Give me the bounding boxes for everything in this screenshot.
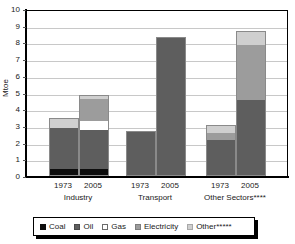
y-axis-tick-mark	[23, 160, 26, 161]
bar-segment-electricity	[236, 45, 266, 100]
legend-label-oil: Oil	[83, 223, 93, 231]
legend-item-gas[interactable]: Gas	[102, 223, 126, 231]
plot-area	[26, 10, 288, 177]
bar-segment-coal	[49, 169, 79, 177]
y-axis-tick-mark	[23, 60, 26, 61]
bar-segment-oil	[236, 100, 266, 176]
bar-segment-electricity	[79, 99, 109, 120]
bar-segment-other	[79, 95, 109, 99]
y-axis-tick-label: 2	[4, 140, 20, 148]
x-axis-line	[25, 176, 289, 178]
bar-segment-oil	[49, 128, 79, 168]
legend-swatch-electricity	[135, 224, 141, 230]
bar-other-sectors-1973	[206, 125, 236, 176]
bar-segment-other	[206, 125, 236, 133]
y-axis-tick-label: 3	[4, 123, 20, 131]
y-axis-tick-label: 1	[4, 156, 20, 164]
bar-segment-oil	[79, 130, 109, 169]
y-axis-tick-mark	[23, 110, 26, 111]
bar-other-sectors-2005	[236, 31, 266, 176]
bar-segment-oil	[126, 131, 156, 176]
bar-industry-1973	[49, 118, 79, 176]
bar-industry-2005	[79, 95, 109, 176]
legend-label-gas: Gas	[111, 223, 126, 231]
chart-legend: CoalOilGasElectricityOther*****	[33, 217, 255, 236]
legend-item-oil[interactable]: Oil	[74, 223, 93, 231]
grid-line	[27, 28, 287, 29]
bar-segment-oil	[206, 140, 236, 176]
y-axis-tick-mark	[23, 144, 26, 145]
bar-segment-coal	[79, 169, 109, 176]
chart-container: 012345678910 Mtoe 19732005Industry197320…	[0, 0, 295, 244]
bar-segment-gas	[79, 121, 109, 130]
legend-swatch-gas	[102, 224, 108, 230]
y-axis-title: Mtoe	[2, 68, 10, 108]
y-axis-tick-mark	[23, 77, 26, 78]
legend-item-coal[interactable]: Coal	[40, 223, 65, 231]
y-axis-tick-label: 8	[4, 39, 20, 47]
legend-item-other[interactable]: Other*****	[187, 223, 232, 231]
legend-swatch-coal	[40, 224, 46, 230]
x-axis-year-label: 1973	[123, 181, 157, 190]
x-axis-year-label: 2005	[153, 181, 187, 190]
legend-label-coal: Coal	[49, 223, 65, 231]
y-axis-tick-label: 9	[4, 23, 20, 31]
x-axis-category-label: Other Sectors****	[175, 193, 295, 202]
y-axis-tick-label: 0	[4, 173, 20, 181]
x-axis-year-label: 1973	[46, 181, 80, 190]
bar-segment-oil	[156, 37, 186, 176]
x-axis-year-label: 2005	[233, 181, 267, 190]
bar-transport-2005	[156, 37, 186, 176]
bar-segment-other	[236, 31, 266, 46]
y-axis-tick-mark	[23, 127, 26, 128]
y-axis-tick-mark	[23, 10, 26, 11]
x-axis-year-label: 2005	[76, 181, 110, 190]
legend-label-other: Other*****	[196, 223, 232, 231]
bar-segment-electricity	[206, 133, 236, 141]
bar-segment-other	[49, 118, 79, 128]
y-axis-tick-mark	[23, 94, 26, 95]
y-axis-tick-mark	[23, 27, 26, 28]
legend-swatch-oil	[74, 224, 80, 230]
y-axis-tick-mark	[23, 43, 26, 44]
legend-label-electricity: Electricity	[144, 223, 178, 231]
y-axis-tick-label: 10	[4, 6, 20, 14]
bar-transport-1973	[126, 131, 156, 176]
x-axis-year-label: 1973	[203, 181, 237, 190]
y-axis-tick-mark	[23, 177, 26, 178]
legend-swatch-other	[187, 224, 193, 230]
legend-item-electricity[interactable]: Electricity	[135, 223, 178, 231]
y-axis-tick-label: 7	[4, 56, 20, 64]
